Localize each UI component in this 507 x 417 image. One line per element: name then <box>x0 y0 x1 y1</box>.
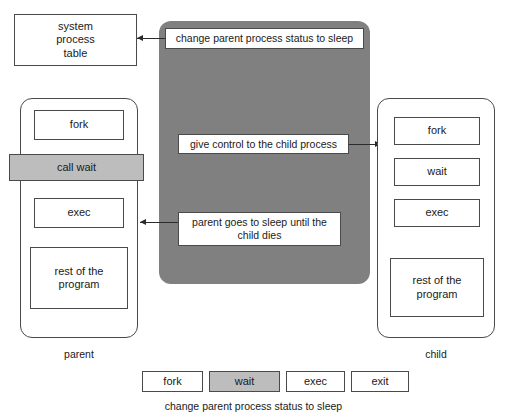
diagram-canvas: system process table change parent proce… <box>0 0 507 417</box>
strip-fork-label: fork <box>163 375 181 388</box>
parent-fork-label: fork <box>70 118 88 131</box>
clipped-top-text <box>0 0 507 7</box>
child-rest-box: rest of the program <box>390 258 484 317</box>
strip-exec-label: exec <box>304 375 327 388</box>
child-exec-label: exec <box>425 206 448 219</box>
strip-exit-label: exit <box>371 375 388 388</box>
strip-exec-box: exec <box>286 371 345 392</box>
system-process-table-line1: system <box>58 20 93 33</box>
system-process-table-box: system process table <box>14 14 137 66</box>
arrowhead-parent-sleep-to-parent <box>140 219 146 225</box>
step-give-control-label: give control to the child process <box>190 138 337 151</box>
bottom-strip-caption: change parent process status to sleep <box>0 400 507 412</box>
child-rest-line1: rest of the <box>413 274 462 287</box>
parent-rest-box: rest of the program <box>30 247 128 309</box>
child-exec-box: exec <box>394 199 480 227</box>
child-rest-line2: program <box>417 288 458 301</box>
parent-rest-line1: rest of the <box>55 265 104 278</box>
child-wait-box: wait <box>394 158 480 186</box>
strip-wait-label: wait <box>235 375 255 388</box>
step-parent-sleep-line1: parent goes to sleep until the <box>192 216 327 229</box>
child-fork-label: fork <box>428 124 446 137</box>
step-parent-sleep-line2: child dies <box>238 229 282 242</box>
child-lane-caption: child <box>377 348 495 360</box>
system-process-table-line3: table <box>64 47 88 60</box>
parent-call-wait-label: call wait <box>57 161 96 174</box>
parent-lane-caption: parent <box>20 348 138 360</box>
parent-exec-label: exec <box>67 206 90 219</box>
step-change-status-box: change parent process status to sleep <box>165 28 364 49</box>
strip-wait-box: wait <box>209 371 280 392</box>
step-parent-sleep-box: parent goes to sleep until the child die… <box>178 212 341 246</box>
system-process-table-line2: process <box>56 33 95 46</box>
child-fork-box: fork <box>394 117 480 145</box>
parent-exec-box: exec <box>34 198 124 228</box>
step-change-status-label: change parent process status to sleep <box>176 32 353 45</box>
parent-call-wait-box: call wait <box>9 154 144 181</box>
strip-exit-box: exit <box>351 371 409 392</box>
parent-fork-box: fork <box>34 110 124 140</box>
strip-fork-box: fork <box>142 371 203 392</box>
step-give-control-box: give control to the child process <box>178 134 349 154</box>
parent-rest-line2: program <box>59 278 100 291</box>
child-wait-label: wait <box>427 165 447 178</box>
arrowhead-change-status-to-table <box>137 35 143 41</box>
